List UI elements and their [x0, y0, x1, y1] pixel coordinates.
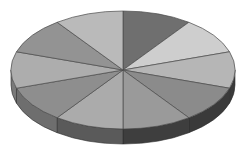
pie-slices: [11, 11, 235, 129]
pie-chart: [0, 0, 244, 154]
